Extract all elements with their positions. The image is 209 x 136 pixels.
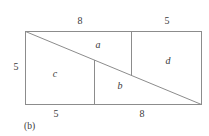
geometry-figure: 8 5 5 5 8 a b c d (b) bbox=[0, 0, 209, 136]
diagram-canvas bbox=[0, 0, 209, 136]
region-label-c: c bbox=[53, 69, 57, 79]
region-label-d: d bbox=[166, 56, 171, 66]
edge-label-bottom-left: 5 bbox=[54, 109, 59, 119]
edge-label-left: 5 bbox=[14, 62, 19, 72]
region-label-a: a bbox=[96, 40, 101, 50]
edge-label-top-right: 5 bbox=[165, 16, 170, 26]
edge-label-top-left: 8 bbox=[78, 16, 83, 26]
figure-caption: (b) bbox=[24, 122, 35, 132]
region-label-b: b bbox=[118, 81, 123, 91]
edge-label-bottom-right: 8 bbox=[140, 109, 145, 119]
